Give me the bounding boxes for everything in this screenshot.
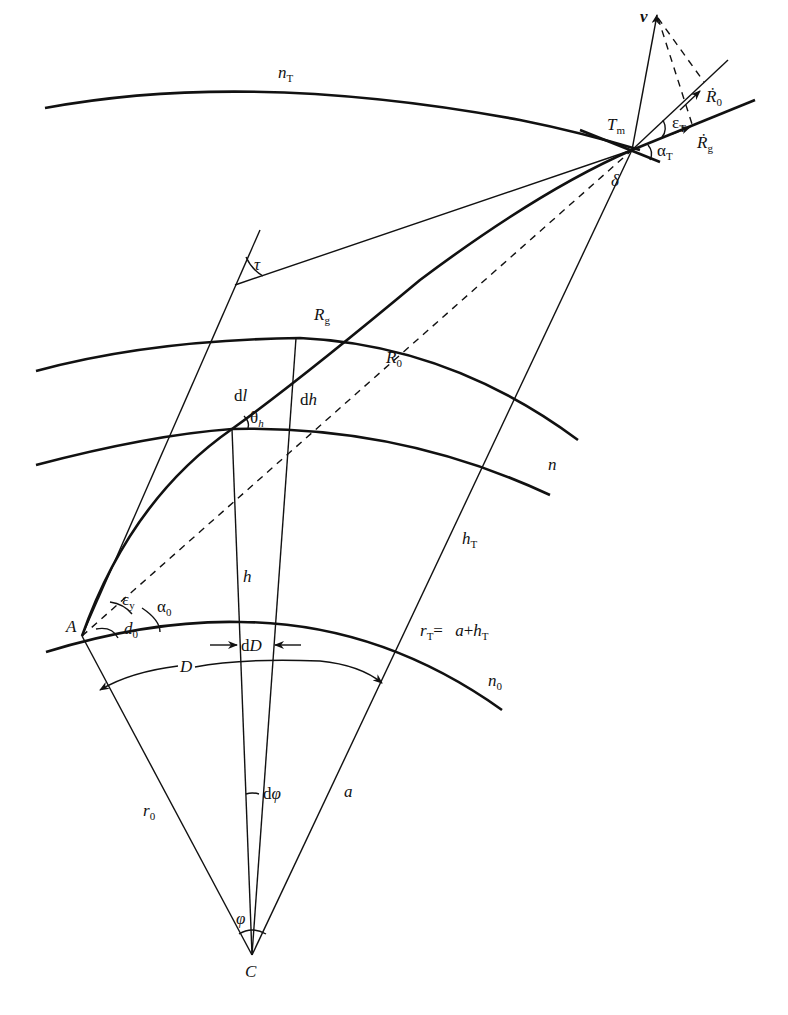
- label-nT: nT: [278, 63, 294, 84]
- tangent-at-A: [82, 230, 260, 636]
- label-v: v: [640, 7, 648, 26]
- Rg-direction-line: [632, 100, 755, 150]
- label-tau: τ: [254, 255, 261, 274]
- arc-lower-layer: [36, 429, 550, 495]
- label-Rgdot: Ṙg: [696, 133, 713, 154]
- label-alpha0: α0: [157, 597, 172, 618]
- angle-dphi: [246, 793, 259, 794]
- label-phi: φ: [236, 909, 245, 928]
- v-to-Rgdot-dash: [658, 18, 692, 124]
- arc-upper-layer: [36, 338, 578, 440]
- line-R0: [82, 150, 632, 636]
- label-hT: hT: [462, 529, 478, 550]
- label-C: C: [245, 962, 257, 981]
- label-A: A: [65, 617, 77, 636]
- label-n0: n0: [488, 671, 503, 692]
- label-dphi: dφ: [263, 784, 281, 803]
- label-R0dot: Ṙ0: [705, 87, 722, 108]
- arc-D: [195, 660, 382, 683]
- v-to-R0dot-dash: [658, 18, 704, 82]
- radial-h: [232, 429, 252, 955]
- label-dD: dD: [241, 636, 263, 655]
- label-h: h: [243, 567, 252, 586]
- label-rT-equation: rT= a+hT: [420, 621, 489, 642]
- tangent-line-to-Tm: [235, 150, 632, 285]
- label-epsT: εT: [672, 113, 686, 134]
- label-d0: d0: [124, 619, 139, 640]
- label-alphaT: αT: [657, 141, 673, 162]
- radial-r0: [82, 636, 252, 955]
- label-a: a: [344, 782, 353, 801]
- label-dl: dl: [234, 386, 248, 405]
- label-D: D: [179, 657, 193, 676]
- label-Rg: Rg: [313, 305, 330, 326]
- refraction-geometry-diagram: nT v Ṙ0 Ṙg Tm εT αT δ τ Rg R0 dl dh θh n…: [0, 0, 788, 1015]
- label-R0: R0: [385, 348, 402, 369]
- label-n: n: [548, 455, 557, 474]
- arc-D-left: [100, 666, 178, 690]
- label-thetah: θh: [250, 408, 264, 429]
- label-delta: δ: [611, 171, 620, 190]
- label-Tm: Tm: [607, 115, 625, 136]
- arc-nT: [45, 92, 640, 150]
- label-dh: dh: [300, 390, 317, 409]
- radial-a-hT: [252, 150, 632, 955]
- label-epsy: εy: [122, 590, 135, 611]
- angle-epsT: [662, 120, 665, 137]
- label-r0: r0: [143, 801, 156, 822]
